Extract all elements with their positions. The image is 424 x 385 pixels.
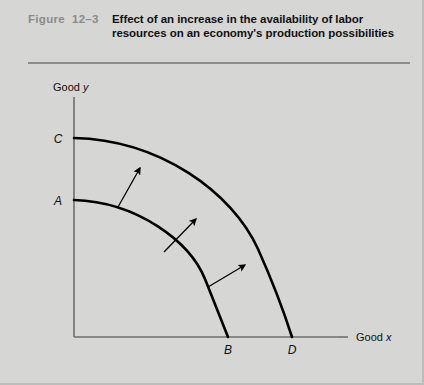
shift-arrow-lower <box>208 265 245 287</box>
x-axis-label-text: Good <box>356 331 386 343</box>
y-axis-label-text: Good <box>53 81 83 93</box>
point-label-d: D <box>288 343 297 357</box>
figure-header: Figure 12–3 Effect of an increase in the… <box>0 0 424 64</box>
point-label-b: B <box>224 343 232 357</box>
figure-title: Effect of an increase in the availabilit… <box>112 12 402 40</box>
figure-container: Figure 12–3 Effect of an increase in the… <box>0 0 424 385</box>
y-axis-label: Good y <box>53 81 90 93</box>
curve-original-ppc <box>74 200 228 337</box>
point-label-c: C <box>54 132 63 146</box>
shift-arrow-upper <box>118 168 140 207</box>
point-label-a: A <box>53 194 62 208</box>
production-possibilities-chart: Good y Good x C A B D <box>0 64 424 385</box>
y-axis-label-variable: y <box>82 81 90 93</box>
x-axis-label: Good x <box>356 331 392 343</box>
figure-number-label: Figure 12–3 <box>28 13 99 25</box>
x-axis-label-variable: x <box>385 331 392 343</box>
curve-shifted-ppc <box>74 138 292 337</box>
